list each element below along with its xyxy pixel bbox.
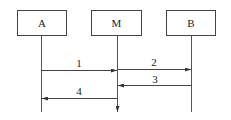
sequence-diagram: A M B 1 2 3 4	[0, 0, 231, 120]
message-4: 4	[42, 85, 118, 99]
participant-b-label: B	[187, 17, 194, 29]
message-3: 3	[118, 73, 192, 86]
participant-a: A	[18, 11, 67, 36]
participant-m: M	[92, 11, 142, 36]
message-2: 2	[118, 56, 192, 70]
message-1-label: 1	[76, 57, 82, 69]
participant-b: B	[167, 11, 216, 36]
participant-a-label: A	[38, 17, 46, 29]
message-3-label: 3	[152, 73, 158, 85]
message-2-label: 2	[151, 56, 157, 68]
message-1: 1	[42, 57, 118, 71]
message-4-label: 4	[76, 85, 82, 97]
participant-m-label: M	[112, 17, 122, 29]
